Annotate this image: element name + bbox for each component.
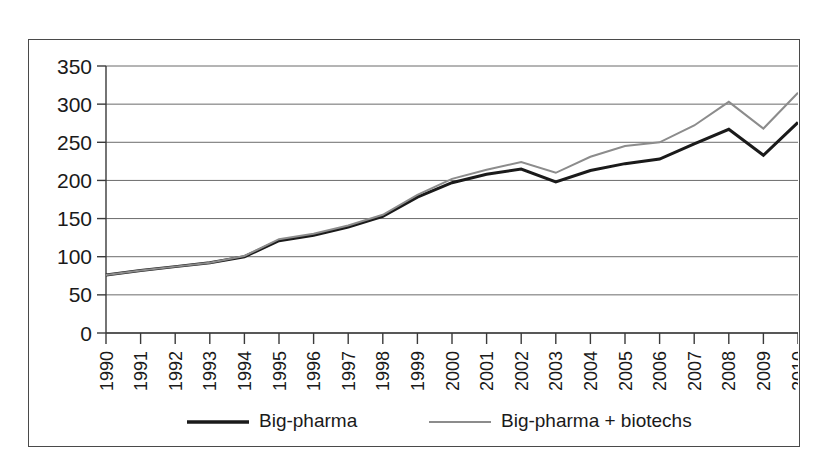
x-axis-tick-label: 2010: [789, 351, 799, 391]
series-line-1: [106, 122, 798, 275]
x-axis-tick-label: 1996: [304, 351, 324, 391]
legend-label-2: Big-pharma + biotechs: [501, 410, 692, 431]
x-axis-tick-label: 1991: [131, 351, 151, 391]
y-axis-tick-marks: [97, 66, 106, 333]
x-axis-tick-label: 2007: [685, 351, 705, 391]
x-axis-tick-label: 1995: [270, 351, 290, 391]
x-axis-tick-label: 2008: [719, 351, 739, 391]
y-axis-tick-label: 150: [57, 207, 92, 230]
y-axis-tick-label: 250: [57, 131, 92, 154]
x-axis-tick-label: 1998: [373, 351, 393, 391]
x-axis-tick-label: 1997: [339, 351, 359, 391]
x-axis-tick-label: 2004: [581, 351, 601, 391]
y-axis-tick-label: 50: [69, 283, 92, 306]
y-axis-tick-labels: 350300250200150100500: [57, 55, 92, 345]
y-axis-tick-label: 300: [57, 93, 92, 116]
x-axis-tick-label: 2009: [754, 351, 774, 391]
x-axis-tick-marks: [106, 333, 798, 344]
chart-legend: Big-pharmaBig-pharma + biotechs: [187, 410, 692, 431]
x-axis-tick-label: 2001: [477, 351, 497, 391]
y-axis-tick-label: 200: [57, 169, 92, 192]
data-series: [106, 93, 798, 275]
x-axis-tick-label: 2002: [512, 351, 532, 391]
x-axis-tick-label: 1992: [166, 351, 186, 391]
x-axis-tick-label: 2000: [443, 351, 463, 391]
legend-label-1: Big-pharma: [259, 410, 358, 431]
x-axis-tick-label: 2006: [650, 351, 670, 391]
x-axis-tick-label: 1993: [200, 351, 220, 391]
x-axis-tick-label: 2005: [616, 351, 636, 391]
y-axis-tick-label: 350: [57, 55, 92, 78]
x-axis-tick-label: 1994: [235, 351, 255, 391]
x-axis-tick-labels: 1990199119921993199419951996199719981999…: [97, 351, 799, 391]
y-axis-tick-label: 0: [80, 322, 92, 345]
line-chart-plot: 350300250200150100500 199019911992199319…: [29, 40, 798, 445]
y-axis-tick-label: 100: [57, 245, 92, 268]
gridlines: [106, 66, 798, 333]
x-axis-tick-label: 1999: [408, 351, 428, 391]
x-axis-tick-label: 2003: [546, 351, 566, 391]
chart-frame: 350300250200150100500 199019911992199319…: [28, 39, 800, 447]
x-axis-tick-label: 1990: [97, 351, 117, 391]
